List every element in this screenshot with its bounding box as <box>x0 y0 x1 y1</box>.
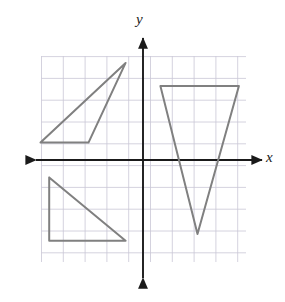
coordinate-plane-figure: y x <box>0 0 285 302</box>
x-axis-label: x <box>266 150 273 165</box>
y-axis-label: y <box>136 12 143 27</box>
coordinate-plane-svg <box>0 0 285 302</box>
upper-left-thin-triangle <box>41 63 126 143</box>
